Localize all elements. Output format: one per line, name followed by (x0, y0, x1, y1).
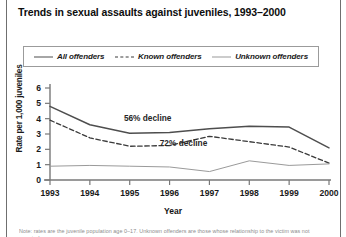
x-tick-label: 1999 (280, 188, 299, 198)
x-tick-label: 1997 (200, 188, 219, 198)
x-tick-label: 1996 (160, 188, 179, 198)
legend-item-unknown-offenders: Unknown offenders (212, 52, 308, 61)
series-line (50, 161, 329, 172)
legend-label-unknown-offenders: Unknown offenders (235, 52, 308, 61)
x-tick-label: 2000 (319, 188, 338, 198)
y-tick-label: 5 (36, 98, 41, 108)
x-tick-label: 1994 (80, 188, 99, 198)
legend-label-all-offenders: All offenders (57, 52, 104, 61)
chart-annotation: 72% decline (160, 138, 208, 148)
plot-area: Rate per 1,000 juveniles 012345619931994… (0, 74, 346, 204)
y-axis-label: Rate per 1,000 juveniles (15, 63, 24, 155)
title-block: Trends in sexual assaults against juveni… (18, 6, 332, 19)
legend-item-all-offenders: All offenders (34, 52, 104, 61)
legend-item-known-offenders: Known offenders (115, 52, 202, 61)
legend-line-icon-known-offenders (115, 53, 134, 60)
y-tick-label: 6 (36, 83, 41, 93)
chart-title: Trends in sexual assaults against juveni… (18, 6, 332, 19)
chart-page: Trends in sexual assaults against juveni… (0, 0, 346, 237)
x-axis-label: Year (0, 206, 346, 216)
y-tick-label: 2 (36, 144, 41, 154)
legend-line-icon-unknown-offenders (212, 53, 231, 60)
legend-line-icon-all-offenders (34, 53, 53, 60)
x-tick-label: 1993 (40, 188, 59, 198)
y-tick-label: 0 (36, 175, 41, 185)
y-tick-label: 4 (36, 114, 41, 124)
x-tick-label: 1998 (240, 188, 259, 198)
chart-legend: All offenders Known offenders Unknown of… (23, 46, 319, 67)
x-tick-label: 1995 (120, 188, 139, 198)
y-tick-label: 3 (36, 129, 41, 139)
legend-label-known-offenders: Known offenders (138, 52, 202, 61)
line-chart-svg: 0123456199319941995199619971998199920005… (0, 74, 346, 204)
chart-footnote: Note: rates are the juvenile population … (19, 228, 330, 237)
chart-annotation: 56% decline (124, 113, 172, 123)
y-tick-label: 1 (36, 160, 41, 170)
